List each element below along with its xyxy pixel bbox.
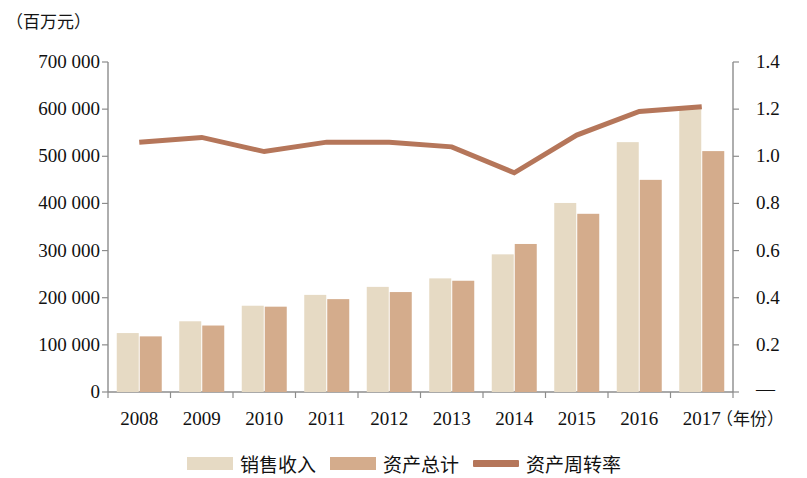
x-tick-label-2012: 2012 <box>370 408 408 430</box>
x-tick-label-2015: 2015 <box>558 408 596 430</box>
bar-sales-revenue-2011 <box>304 295 326 392</box>
bar-sales-revenue-2015 <box>554 203 576 392</box>
bar-sales-revenue-2017 <box>679 107 701 392</box>
y-left-tick-label: 700 000 <box>8 52 100 71</box>
bar-total-assets-2010 <box>265 307 287 392</box>
y-right-tick-label: 0.4 <box>756 288 780 307</box>
bar-sales-revenue-2010 <box>242 306 264 392</box>
bar-total-assets-2013 <box>452 281 474 392</box>
bar-total-assets-2011 <box>327 299 349 392</box>
y-right-tick-label: — <box>756 379 775 398</box>
chart-canvas <box>108 62 733 392</box>
bar-total-assets-2008 <box>140 336 162 392</box>
bar-sales-revenue-2016 <box>617 142 639 392</box>
x-tick-label-2010: 2010 <box>245 408 283 430</box>
y-right-tick-label: 0.6 <box>756 241 780 260</box>
bar-sales-revenue-2009 <box>179 321 201 392</box>
y-left-tick-label: 200 000 <box>8 288 100 307</box>
chart-legend: 销售收入资产总计资产周转率 <box>0 448 807 478</box>
legend-bar-swatch-icon <box>187 457 233 470</box>
bar-total-assets-2015 <box>577 214 599 392</box>
x-tick-label-2014: 2014 <box>495 408 533 430</box>
legend-item-3[interactable]: 资产周转率 <box>473 450 621 477</box>
y-axis-right-ticks: —0.20.40.60.81.01.21.4 <box>744 0 807 478</box>
y-left-tick-label: 0 <box>8 382 100 401</box>
x-tick-label-2009: 2009 <box>183 408 221 430</box>
x-axis-ticks: 2008200920102011201220132014201520162017 <box>0 408 807 438</box>
y-right-tick-label: 1.0 <box>756 146 780 165</box>
x-tick-label-2016: 2016 <box>620 408 658 430</box>
y-right-tick-label: 1.2 <box>756 99 780 118</box>
y-left-tick-label: 500 000 <box>8 146 100 165</box>
y-right-tick-label: 0.2 <box>756 335 780 354</box>
x-tick-label-2011: 2011 <box>308 408 345 430</box>
legend-label: 销售收入 <box>240 450 316 477</box>
legend-label: 资产总计 <box>383 450 459 477</box>
legend-line-swatch-icon <box>473 460 519 467</box>
bar-total-assets-2009 <box>202 326 224 392</box>
legend-label: 资产周转率 <box>526 450 621 477</box>
x-tick-label-2013: 2013 <box>433 408 471 430</box>
bar-sales-revenue-2014 <box>492 254 514 392</box>
bar-sales-revenue-2008 <box>117 333 139 392</box>
legend-bar-swatch-icon <box>330 457 376 470</box>
bar-total-assets-2016 <box>640 180 662 392</box>
y-left-tick-label: 100 000 <box>8 335 100 354</box>
y-left-tick-label: 400 000 <box>8 193 100 212</box>
y-left-tick-label: 300 000 <box>8 241 100 260</box>
chart-figure: （百万元） （年份） 0100 000200 000300 000400 000… <box>0 0 807 478</box>
x-tick-label-2008: 2008 <box>120 408 158 430</box>
bar-total-assets-2017 <box>702 151 724 392</box>
legend-item-1[interactable]: 销售收入 <box>187 450 316 477</box>
y-axis-left-ticks: 0100 000200 000300 000400 000500 000600 … <box>0 0 100 478</box>
bar-sales-revenue-2012 <box>367 287 389 392</box>
bar-total-assets-2012 <box>390 292 412 392</box>
x-tick-label-2017: 2017 <box>683 408 721 430</box>
bar-series-layer <box>117 107 725 392</box>
bar-sales-revenue-2013 <box>429 278 451 392</box>
plot-area <box>108 62 733 392</box>
bar-total-assets-2014 <box>515 244 537 392</box>
y-right-tick-label: 0.8 <box>756 193 780 212</box>
y-left-tick-label: 600 000 <box>8 99 100 118</box>
legend-item-2[interactable]: 资产总计 <box>330 450 459 477</box>
y-right-tick-label: 1.4 <box>756 52 780 71</box>
